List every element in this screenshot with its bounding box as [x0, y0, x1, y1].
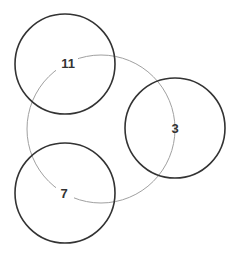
node-label-3: 3 — [171, 121, 178, 136]
node-label-11: 11 — [61, 56, 75, 71]
venn-diagram: 11 3 7 — [0, 0, 236, 258]
ring-circle — [27, 55, 175, 203]
node-label-7: 7 — [60, 186, 67, 201]
